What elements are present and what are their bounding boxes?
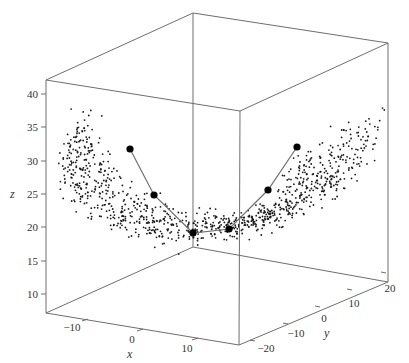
- box-back-edges: [46, 13, 388, 313]
- data-point: [348, 167, 350, 169]
- data-point: [84, 154, 86, 156]
- data-point: [159, 192, 161, 194]
- data-point: [146, 192, 148, 194]
- data-point: [303, 164, 305, 166]
- data-point: [219, 225, 221, 227]
- data-point: [290, 206, 292, 208]
- data-point: [264, 216, 266, 218]
- data-point: [284, 220, 286, 222]
- data-point: [139, 221, 141, 223]
- data-point: [109, 197, 111, 199]
- data-point: [70, 108, 72, 110]
- data-point: [350, 138, 352, 140]
- data-point: [147, 222, 149, 224]
- data-point: [278, 204, 280, 206]
- data-point: [333, 185, 335, 187]
- data-point: [126, 229, 128, 231]
- data-point: [226, 239, 228, 241]
- data-point: [107, 174, 109, 176]
- data-point: [287, 204, 289, 206]
- data-point: [59, 152, 61, 154]
- data-point: [310, 196, 312, 198]
- data-point: [323, 191, 325, 193]
- data-point: [131, 235, 133, 237]
- data-point: [358, 163, 360, 165]
- data-point: [358, 126, 360, 128]
- data-point: [143, 208, 145, 210]
- data-point: [107, 217, 109, 219]
- data-point: [78, 193, 80, 195]
- data-point: [360, 157, 362, 159]
- path-point: [150, 191, 157, 198]
- data-point: [162, 243, 164, 245]
- data-point: [125, 218, 127, 220]
- data-point: [137, 203, 139, 205]
- data-point: [97, 182, 99, 184]
- data-point: [74, 172, 76, 174]
- data-point: [362, 150, 364, 152]
- data-point: [215, 228, 217, 230]
- data-point: [230, 223, 232, 225]
- data-point: [288, 171, 290, 173]
- data-point: [280, 217, 282, 219]
- data-point: [281, 208, 283, 210]
- data-point: [78, 141, 80, 143]
- data-point: [77, 151, 79, 153]
- data-point: [154, 221, 156, 223]
- data-point: [351, 166, 353, 168]
- data-point: [117, 223, 119, 225]
- data-point: [81, 175, 83, 177]
- data-point: [307, 151, 309, 153]
- data-point: [213, 215, 215, 217]
- data-point: [134, 222, 136, 224]
- data-point: [314, 186, 316, 188]
- data-point: [338, 156, 340, 158]
- data-point: [224, 222, 226, 224]
- data-point: [131, 211, 133, 213]
- data-point: [279, 197, 281, 199]
- data-point: [281, 199, 283, 201]
- data-point: [151, 215, 153, 217]
- data-point: [90, 110, 92, 112]
- data-point: [288, 208, 290, 210]
- data-point: [123, 200, 125, 202]
- data-point: [309, 206, 311, 208]
- data-point: [154, 246, 156, 248]
- data-point: [326, 178, 328, 180]
- data-point: [140, 216, 142, 218]
- data-point: [360, 139, 362, 141]
- data-point: [321, 186, 323, 188]
- data-point: [311, 157, 313, 159]
- data-point: [295, 177, 297, 179]
- data-point: [181, 212, 183, 214]
- data-point: [104, 204, 106, 206]
- data-point: [67, 166, 69, 168]
- data-point: [143, 217, 145, 219]
- data-point: [210, 223, 212, 225]
- data-point: [133, 205, 135, 207]
- data-point: [274, 206, 276, 208]
- data-point: [336, 188, 338, 190]
- data-point: [315, 182, 317, 184]
- data-point: [111, 171, 113, 173]
- data-point: [274, 214, 276, 216]
- data-point: [296, 212, 298, 214]
- y-tick: [381, 272, 386, 273]
- box-edge: [240, 43, 388, 111]
- data-point: [214, 234, 216, 236]
- data-point: [122, 191, 124, 193]
- data-point: [87, 168, 89, 170]
- data-point: [254, 221, 256, 223]
- data-point: [69, 169, 71, 171]
- data-point: [306, 173, 308, 175]
- y-tick-label: −20: [257, 342, 275, 354]
- data-point: [152, 222, 154, 224]
- data-point: [287, 214, 289, 216]
- data-point: [359, 165, 361, 167]
- data-point: [277, 191, 279, 193]
- data-point: [329, 176, 331, 178]
- data-point: [79, 185, 81, 187]
- x-tick: [137, 329, 143, 331]
- data-point: [80, 168, 82, 170]
- data-point: [374, 126, 376, 128]
